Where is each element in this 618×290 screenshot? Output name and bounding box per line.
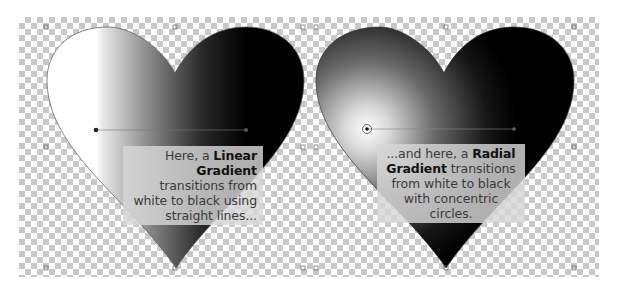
- caption-text: Here, a: [165, 148, 213, 163]
- gradient-center-handle[interactable]: [365, 127, 369, 131]
- linear-gradient-caption: Here, a Linear Gradient transitions from…: [123, 146, 263, 225]
- gradient-radius-handle[interactable]: [512, 127, 516, 131]
- radial-gradient-caption: ...and here, a Radial Gradient transitio…: [377, 144, 525, 223]
- caption-text: transitions from white to black using st…: [133, 178, 257, 223]
- gradient-start-handle[interactable]: [94, 128, 99, 133]
- artwork: [0, 0, 618, 290]
- gradient-end-handle[interactable]: [244, 128, 248, 132]
- caption-text: ...and here, a: [386, 146, 472, 161]
